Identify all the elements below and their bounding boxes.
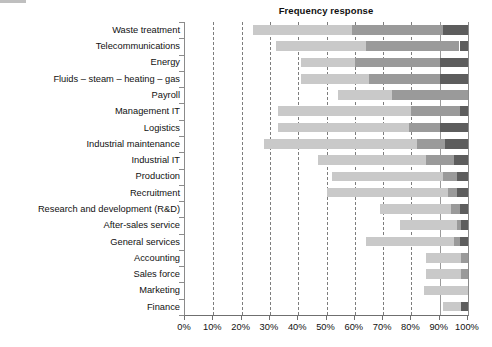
bar-segment-light: [278, 106, 411, 116]
x-tick: [297, 316, 298, 320]
bar-row: [185, 87, 468, 103]
bar-segment-light: [380, 204, 451, 214]
bar-row: [185, 120, 468, 136]
plot-area: [184, 22, 469, 316]
bar-segment-light: [278, 123, 408, 133]
x-axis: 0%10%20%30%40%50%60%70%80%90%100%: [184, 316, 469, 346]
bar-row: [185, 185, 468, 201]
bar-row: [185, 152, 468, 168]
bar-row: [185, 266, 468, 282]
x-tick-label: 20%: [231, 322, 250, 333]
bar-segment-light: [318, 155, 426, 165]
bar-row: [185, 234, 468, 250]
category-label: Recruitment: [2, 188, 180, 198]
bar-row: [185, 201, 468, 217]
bar-row: [185, 299, 468, 315]
bar-row: [185, 71, 468, 87]
category-label: Finance: [2, 302, 180, 312]
bar-segment-medium: [369, 74, 440, 84]
bar-segment-medium: [448, 188, 456, 198]
bar-segment-dark: [460, 204, 468, 214]
bar-segment-dark: [460, 106, 468, 116]
bar-segment-dark: [457, 188, 468, 198]
bar-row: [185, 136, 468, 152]
category-label: Payroll: [2, 90, 180, 100]
bar-segment-dark: [440, 58, 468, 68]
category-axis: Waste treatmentTelecommunicationsEnergyF…: [0, 22, 180, 315]
category-label: Production: [2, 171, 180, 181]
bar-segment-light: [424, 286, 468, 296]
bar-segment-dark: [457, 172, 468, 182]
frequency-response-chart: Frequency response Waste treatmentTeleco…: [0, 0, 492, 347]
bar-row: [185, 217, 468, 233]
bar-segment-dark: [440, 74, 468, 84]
x-tick-label: 40%: [288, 322, 307, 333]
category-label: After-sales service: [2, 220, 180, 230]
bar-segment-dark: [443, 25, 468, 35]
bar-row: [185, 250, 468, 266]
bar-row: [185, 103, 468, 119]
category-label: Industrial IT: [2, 155, 180, 165]
bar-segment-dark: [460, 41, 468, 51]
bar-segment-light: [443, 302, 461, 312]
category-label: Energy: [2, 57, 180, 67]
bar-segment-light: [426, 253, 461, 263]
x-tick-label: 60%: [344, 322, 363, 333]
x-tick-label: 50%: [316, 322, 335, 333]
bar-segment-dark: [461, 220, 468, 230]
x-tick: [326, 316, 327, 320]
bar-segment-medium: [443, 172, 457, 182]
x-tick-label: 80%: [401, 322, 420, 333]
category-label: Sales force: [2, 269, 180, 279]
bar-segment-light: [253, 25, 352, 35]
bar-segment-medium: [461, 253, 468, 263]
bar-segment-light: [301, 58, 355, 68]
bar-segment-medium: [411, 106, 459, 116]
category-label: Accounting: [2, 253, 180, 263]
x-tick: [354, 316, 355, 320]
bar-segment-medium: [409, 123, 440, 133]
category-label: Logistics: [2, 123, 180, 133]
bar-segment-light: [276, 41, 367, 51]
x-tick: [241, 316, 242, 320]
bar-segment-medium: [417, 139, 445, 149]
bar-segment-light: [366, 237, 454, 247]
category-label: General services: [2, 237, 180, 247]
bar-row: [185, 282, 468, 298]
category-label: Telecommunications: [2, 41, 180, 51]
chart-title: Frequency response: [184, 5, 468, 16]
bar-segment-medium: [352, 25, 443, 35]
bar-segment-dark: [445, 139, 468, 149]
bar-segment-light: [400, 220, 457, 230]
bar-segment-light: [426, 269, 461, 279]
bar-segment-medium: [451, 204, 459, 214]
bar-segment-dark: [460, 237, 468, 247]
bar-row: [185, 38, 468, 54]
bar-segment-medium: [355, 58, 440, 68]
x-tick: [212, 316, 213, 320]
x-tick-label: 70%: [373, 322, 392, 333]
bar-segment-dark: [461, 302, 468, 312]
bar-segment-medium: [461, 269, 468, 279]
x-tick-label: 0%: [177, 322, 190, 333]
bar-segment-light: [264, 139, 417, 149]
bar-segment-dark: [454, 155, 468, 165]
bar-segment-light: [327, 188, 449, 198]
bar-row: [185, 169, 468, 185]
bar-segment-medium: [426, 155, 454, 165]
bar-row: [185, 55, 468, 71]
bar-segment-dark: [440, 123, 468, 133]
x-tick: [184, 316, 185, 320]
x-tick: [439, 316, 440, 320]
bar-row: [185, 22, 468, 38]
category-label: Industrial maintenance: [2, 139, 180, 149]
x-tick-label: 10%: [203, 322, 222, 333]
category-label: Fluids – steam – heating – gas: [2, 74, 180, 84]
x-tick-label: 100%: [455, 322, 479, 333]
x-tick: [269, 316, 270, 320]
x-tick-label: 90%: [429, 322, 448, 333]
bar-segment-medium: [366, 41, 459, 51]
x-tick-label: 30%: [260, 322, 279, 333]
bar-segment-light: [301, 74, 369, 84]
category-label: Marketing: [2, 285, 180, 295]
